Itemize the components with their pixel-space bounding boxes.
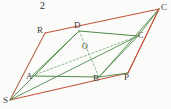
edge-R-C: [45, 9, 159, 33]
vertex-label-O: O: [82, 43, 88, 51]
vertex-label-B: B: [93, 74, 99, 83]
edge-Cinner-B: [99, 36, 138, 77]
geometry-canvas: [0, 0, 171, 109]
ray-S-A-Cinner: [10, 36, 138, 100]
vertex-label-A: A: [26, 72, 33, 81]
diagonals: [32, 31, 138, 77]
rays-from-S: [10, 31, 138, 100]
edge-D-Cinner: [79, 31, 138, 36]
geometry-figure: 2 S R C P A D C B O: [0, 0, 171, 109]
vertex-label-P: P: [124, 73, 129, 82]
vertex-label-C-outer: C: [161, 3, 167, 12]
diagonal-D-B: [79, 31, 99, 77]
edge-S-R: [10, 33, 45, 100]
vertex-label-S: S: [3, 96, 8, 105]
vertex-label-D: D: [74, 21, 81, 30]
vertex-label-C-inner: C: [138, 32, 143, 40]
figure-number: 2: [40, 1, 45, 11]
vertex-label-R: R: [37, 26, 43, 35]
edge-B-A: [32, 76, 99, 77]
